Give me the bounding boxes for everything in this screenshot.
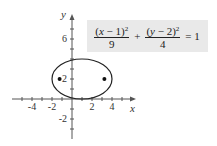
- denominator-a-squared: 9: [109, 38, 115, 50]
- focus-point-right: [102, 77, 106, 81]
- x-axis-label: x: [129, 102, 135, 114]
- x-tick-label: -2: [48, 101, 56, 112]
- ellipse-figure: -4 -2 2 4 6 2 -2 x y (x − 1)2 9 + (y − 2…: [0, 0, 217, 146]
- y-tick-label: -2: [59, 113, 67, 124]
- equals-one: = 1: [185, 30, 199, 42]
- y-axis-label: y: [60, 8, 66, 20]
- plus-sign: +: [134, 30, 140, 42]
- x-tick-label: 4: [110, 101, 115, 112]
- equation-box: (x − 1)2 9 + (y − 2)2 4 = 1: [87, 20, 208, 52]
- denominator-b-squared: 4: [160, 38, 166, 50]
- focus-point-left: [58, 77, 62, 81]
- x-tick-label: -4: [28, 101, 36, 112]
- exponent: 2: [176, 25, 180, 33]
- y-tick-label: 6: [62, 33, 67, 44]
- y-axis-arrow-icon: [70, 14, 75, 20]
- x-axis-arrow-icon: [130, 97, 136, 102]
- variable-y: y: [150, 25, 155, 37]
- variable-x: x: [99, 25, 104, 37]
- x-tick-label: 2: [90, 101, 95, 112]
- fraction-y-term: (y − 2)2 4: [145, 23, 180, 50]
- constant-h: 1: [115, 25, 121, 37]
- exponent: 2: [125, 25, 129, 33]
- y-tick-label: 2: [62, 73, 67, 84]
- constant-k: 2: [167, 25, 173, 37]
- fraction-x-term: (x − 1)2 9: [94, 23, 129, 50]
